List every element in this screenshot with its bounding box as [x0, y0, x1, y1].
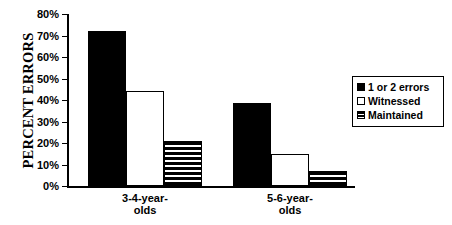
legend-label-0: 1 or 2 errors	[368, 81, 429, 93]
bar-chart: PERCENT ERRORS 80%70%60%50%40%30%20%10%0…	[0, 0, 452, 225]
y-axis-tick	[62, 79, 67, 80]
y-axis-tick-label: 20%	[37, 137, 59, 149]
legend-label-1: Witnessed	[368, 95, 420, 107]
legend-item-0: 1 or 2 errors	[357, 80, 439, 94]
y-axis-tick	[62, 14, 67, 15]
y-axis-tick	[62, 100, 67, 101]
x-axis-category-label: 5-6-year-olds	[233, 192, 347, 216]
category-label-line: olds	[233, 204, 347, 216]
bar-0-2	[164, 141, 202, 186]
legend-swatch-open-icon	[357, 97, 365, 105]
y-axis-tick-label: 80%	[37, 8, 59, 20]
y-axis-tick-label: 70%	[37, 30, 59, 42]
y-axis-tick	[62, 143, 67, 144]
legend-swatch-solid-icon	[357, 83, 365, 91]
legend-item-2: Maintained	[357, 108, 439, 122]
bar-0-0	[88, 31, 126, 186]
category-label-line: 5-6-year-	[233, 192, 347, 204]
legend: 1 or 2 errors Witnessed Maintained	[352, 76, 444, 127]
y-axis-tick	[62, 122, 67, 123]
x-axis-line	[67, 186, 355, 188]
bar-1-0	[233, 103, 271, 186]
y-axis-tick	[62, 165, 67, 166]
y-axis-tick-label: 40%	[37, 94, 59, 106]
bar-1-1	[271, 154, 309, 186]
bar-0-1	[126, 91, 164, 186]
y-axis-tick-label: 30%	[37, 116, 59, 128]
category-label-line: olds	[88, 204, 202, 216]
plot-area: 80%70%60%50%40%30%20%10%0%	[67, 14, 355, 186]
y-axis-tick	[62, 186, 67, 187]
legend-swatch-striped-icon	[357, 111, 365, 119]
y-axis-tick-label: 60%	[37, 51, 59, 63]
legend-item-1: Witnessed	[357, 94, 439, 108]
y-axis-title: PERCENT ERRORS	[20, 21, 37, 181]
y-axis-tick-label: 50%	[37, 73, 59, 85]
y-axis-tick	[62, 57, 67, 58]
category-label-line: 3-4-year-	[88, 192, 202, 204]
y-axis-tick-label: 10%	[37, 159, 59, 171]
x-axis-category-label: 3-4-year-olds	[88, 192, 202, 216]
bar-1-2	[309, 171, 347, 186]
legend-label-2: Maintained	[368, 109, 423, 121]
y-axis-tick	[62, 36, 67, 37]
y-axis-tick-label: 0%	[43, 180, 59, 192]
